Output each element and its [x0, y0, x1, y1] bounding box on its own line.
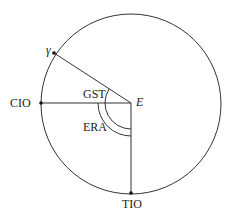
- cio-point: [39, 101, 43, 105]
- diagram-canvas: γ CIO TIO E GST ERA: [0, 0, 232, 218]
- era-label: ERA: [83, 120, 107, 134]
- gst-label: GST: [83, 87, 106, 101]
- center-label-e: E: [135, 95, 144, 109]
- gamma-label: γ: [46, 43, 51, 57]
- cio-label: CIO: [10, 96, 31, 110]
- tio-label: TIO: [122, 197, 142, 211]
- tio-point: [129, 191, 133, 195]
- gamma-point: [52, 51, 56, 55]
